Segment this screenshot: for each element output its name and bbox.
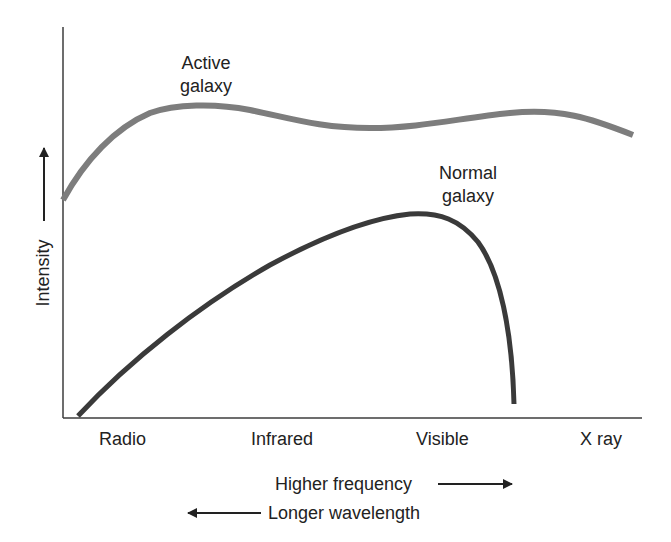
active-galaxy-label-line2: galaxy	[170, 75, 242, 98]
active-galaxy-label: Active galaxy	[170, 52, 242, 98]
x-tick-infrared: Infrared	[251, 429, 313, 449]
normal-galaxy-curve	[78, 214, 514, 416]
active-galaxy-curve	[63, 105, 633, 200]
normal-galaxy-label-line2: galaxy	[430, 185, 506, 208]
galaxy-spectrum-chart: Active galaxy Normal galaxy Intensity Ra…	[0, 0, 671, 542]
normal-galaxy-label-line1: Normal	[430, 162, 506, 185]
x-tick-visible: Visible	[416, 429, 469, 449]
plot-area	[0, 0, 671, 542]
active-galaxy-label-line1: Active	[170, 52, 242, 75]
longer-wavelength-label: Longer wavelength	[268, 503, 420, 523]
y-axis-label: Intensity	[33, 239, 54, 306]
x-tick-radio: Radio	[99, 429, 146, 449]
x-tick-xray: X ray	[580, 429, 622, 449]
y-axis-label-container: Intensity	[32, 232, 54, 314]
higher-frequency-label: Higher frequency	[275, 474, 412, 494]
normal-galaxy-label: Normal galaxy	[430, 162, 506, 208]
